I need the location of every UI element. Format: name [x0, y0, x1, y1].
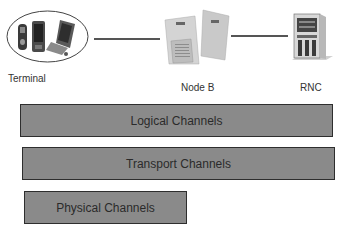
- logical-channels-label: Logical Channels: [130, 114, 222, 128]
- mobile-devices-icon: [6, 10, 89, 63]
- terminal-node: [6, 10, 89, 63]
- base-station-icon: [163, 6, 233, 66]
- terminal-label: Terminal: [8, 73, 46, 84]
- logical-channels-layer: Logical Channels: [20, 104, 333, 137]
- link-nodeb-rnc: [231, 35, 288, 37]
- server-rack-icon: [290, 12, 335, 62]
- rnc-label: RNC: [300, 82, 322, 93]
- transport-channels-layer: Transport Channels: [22, 147, 335, 180]
- link-terminal-nodeb: [94, 38, 160, 40]
- nodeb-label: Node B: [181, 82, 214, 93]
- physical-channels-label: Physical Channels: [56, 201, 155, 215]
- nodeb-node: [163, 6, 233, 66]
- physical-channels-layer: Physical Channels: [24, 191, 187, 224]
- rnc-node: [290, 12, 335, 62]
- transport-channels-label: Transport Channels: [126, 157, 231, 171]
